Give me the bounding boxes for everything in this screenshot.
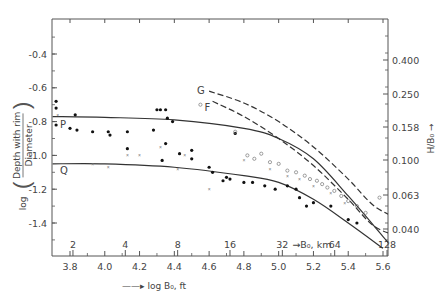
x2-tick-label: 4 [122, 239, 128, 250]
data-point-filled [305, 205, 308, 208]
data-point-open [321, 183, 324, 186]
data-point-filled [108, 134, 111, 137]
y2-tick-label: 0.063 [392, 190, 419, 201]
data-point-filled [91, 130, 94, 133]
data-point-open [253, 157, 256, 160]
x-tick-label: 5.2 [306, 261, 321, 272]
data-point-filled [164, 108, 167, 111]
data-point-open [277, 162, 280, 165]
x-tick-label: 4.0 [97, 261, 112, 272]
y-label-denominator: Diameter [24, 124, 34, 166]
y2-tick-label: 0.400 [392, 55, 419, 66]
x-tick-label: 5.0 [271, 261, 286, 272]
curve-p [53, 117, 401, 257]
data-point-filled [221, 179, 224, 182]
data-point-filled [155, 108, 158, 111]
data-point-filled [161, 159, 164, 162]
data-point-open [347, 199, 350, 202]
data-point-x: × [159, 144, 162, 150]
y-label-paren-right: ) [9, 102, 34, 109]
data-point-x: × [269, 166, 272, 172]
data-point-filled [107, 130, 110, 133]
data-point-open [294, 171, 297, 174]
data-point-x: × [138, 152, 141, 158]
x2-tick-label: 32 [276, 239, 288, 250]
data-point-filled [208, 166, 211, 169]
data-point-x: × [208, 186, 211, 192]
data-point-filled [251, 181, 254, 184]
data-point-open [333, 189, 336, 192]
data-point-x: × [107, 164, 110, 170]
x2-tick-label: 2 [70, 239, 76, 250]
curve-f [213, 101, 401, 236]
data-point-filled [225, 176, 228, 179]
x-tick-label: 4.4 [167, 261, 182, 272]
data-point-filled [263, 184, 266, 187]
curve-q [53, 164, 383, 249]
data-point-x: × [286, 173, 289, 179]
data-point-x: × [242, 157, 245, 163]
y2-tick-label: 0.158 [392, 122, 419, 133]
y-label-numerator: Depth with rim [12, 112, 22, 179]
x2-tick-label: 8 [175, 239, 181, 250]
curve-label-p: P [60, 119, 66, 130]
x2-axis-label: →B₀, km [292, 239, 331, 250]
x-tick-label: 4.6 [202, 261, 217, 272]
data-point-filled [164, 142, 167, 145]
data-point-filled [171, 120, 174, 123]
data-point-filled [190, 149, 193, 152]
data-point-open [378, 196, 381, 199]
data-point-open [340, 194, 343, 197]
y2-tick-label: 0.100 [392, 155, 419, 166]
data-point-filled [126, 130, 129, 133]
y2-tick-label: 0.040 [392, 224, 419, 235]
chart-canvas: -0.4-0.6-0.8-1.0-1.2-1.43.84.04.24.44.64… [0, 0, 439, 297]
data-point-open [308, 177, 311, 180]
data-point-filled [159, 108, 162, 111]
x-axis-label: ——▸ log B₀, ft [122, 281, 186, 291]
y-tick-label: -0.6 [28, 82, 47, 93]
data-point-open [199, 103, 202, 106]
y-label-log: log [18, 197, 28, 211]
curve-label-f: F [205, 102, 211, 113]
data-point-x: × [312, 183, 315, 189]
data-point-x: × [183, 152, 186, 158]
data-point-filled [54, 123, 57, 126]
y-tick-label: -0.4 [28, 49, 47, 60]
x2-tick-label: 16 [224, 239, 236, 250]
data-point-open [268, 161, 271, 164]
data-point-filled [286, 184, 289, 187]
data-point-filled [68, 127, 71, 130]
x-tick-label: 4.8 [236, 261, 251, 272]
data-point-filled [75, 128, 78, 131]
data-point-filled [54, 100, 57, 103]
data-point-open [246, 154, 249, 157]
data-point-x: × [329, 190, 332, 196]
data-point-filled [178, 152, 181, 155]
data-point-filled [190, 157, 193, 160]
data-point-filled [166, 117, 169, 120]
data-point-filled [298, 196, 301, 199]
data-point-open [315, 179, 318, 182]
data-point-filled [152, 128, 155, 131]
curve-g [209, 91, 400, 219]
y-tick-label: -1.4 [28, 218, 47, 229]
y2-axis-label: H/B₀ → [426, 123, 436, 153]
x-tick-label: 5.6 [375, 261, 390, 272]
data-point-filled [347, 218, 350, 221]
data-point-x: × [298, 176, 301, 182]
data-point-filled [74, 113, 77, 116]
data-point-filled [242, 181, 245, 184]
curve-label-g: G [197, 85, 205, 96]
y2-tick-label: 0.250 [392, 89, 419, 100]
x-tick-label: 3.8 [62, 261, 77, 272]
data-point-filled [329, 205, 332, 208]
data-point-filled [54, 106, 57, 109]
data-point-filled [211, 171, 214, 174]
data-point-filled [312, 201, 315, 204]
data-point-x: × [176, 166, 179, 172]
data-point-filled [294, 188, 297, 191]
data-point-open [303, 174, 306, 177]
x-tick-label: 5.4 [341, 261, 356, 272]
data-point-x: × [91, 161, 94, 167]
